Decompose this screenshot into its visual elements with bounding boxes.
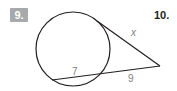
external-segment-label-9: 9: [128, 73, 134, 84]
tangent-label-x: x: [130, 27, 137, 38]
secant-segment: [52, 66, 160, 80]
internal-segment-label-7: 7: [72, 66, 78, 77]
tangent-segment: [97, 21, 160, 66]
circle-tangent-secant-figure: x 7 9: [0, 0, 177, 91]
